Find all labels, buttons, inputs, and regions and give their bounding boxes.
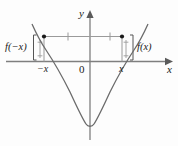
y-axis-arrowhead xyxy=(86,10,93,18)
figure-container: y x 0 −x x f(−x) f(x) xyxy=(0,0,178,146)
function-value-label-left: f(−x) xyxy=(5,42,27,53)
x-axis-label: x xyxy=(167,64,172,75)
y-axis-label: y xyxy=(79,8,84,19)
point-right xyxy=(120,34,124,38)
point-left xyxy=(42,34,46,38)
graph-canvas xyxy=(0,0,178,146)
origin-label: 0 xyxy=(79,64,85,75)
function-value-label-right: f(x) xyxy=(137,42,152,53)
measure-arrow-right xyxy=(124,40,129,58)
tick-label-positive-x: x xyxy=(119,64,123,74)
tick-label-negative-x: −x xyxy=(37,64,48,74)
bracket-left xyxy=(34,35,37,60)
